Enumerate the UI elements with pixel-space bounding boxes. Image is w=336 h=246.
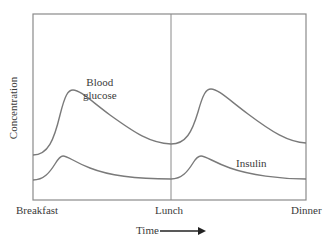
x-axis-label: Time — [136, 224, 159, 236]
time-arrow-icon — [198, 227, 206, 235]
blood-glucose-curve — [33, 89, 306, 155]
x-tick-lunch: Lunch — [155, 204, 183, 216]
blood-glucose-label-line1: Blood — [83, 76, 117, 89]
blood-glucose-label: Blood glucose — [83, 76, 117, 102]
y-axis-label: Concentration — [7, 77, 19, 139]
insulin-label: Insulin — [236, 157, 267, 170]
x-tick-breakfast: Breakfast — [16, 204, 58, 216]
x-tick-dinner: Dinner — [291, 204, 322, 216]
plot-frame — [33, 14, 306, 200]
blood-glucose-label-line2: glucose — [83, 89, 117, 102]
